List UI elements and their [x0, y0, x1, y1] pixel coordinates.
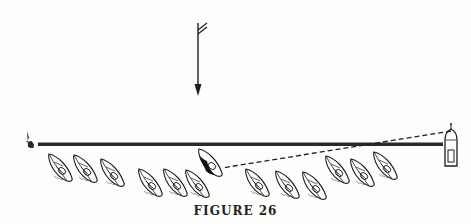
sailboat-icon [186, 170, 210, 197]
sailboat-icon [326, 156, 350, 183]
wind-arrow-icon [195, 23, 208, 96]
figure-caption: FIGURE 26 [0, 204, 471, 218]
fleet [49, 152, 398, 199]
sailboat-icon [351, 159, 375, 186]
sailboat-icon [101, 159, 125, 186]
sailboat-icon [374, 152, 398, 179]
starting-line [38, 143, 443, 147]
sailboat-icon [303, 172, 327, 199]
race-start-diagram: FIGURE 26 [0, 0, 471, 224]
sailboat-icon [74, 155, 98, 182]
committee-boat-icon [445, 123, 457, 166]
sailboat-icon [164, 169, 188, 196]
highlighted-boat-icon [199, 149, 223, 176]
diagram-canvas [0, 0, 471, 224]
pin-buoy-icon [26, 131, 34, 148]
sailboat-icon [139, 169, 163, 196]
sailboat-icon [276, 171, 300, 198]
sailboat-icon [49, 154, 73, 181]
sailboat-icon [246, 169, 270, 196]
